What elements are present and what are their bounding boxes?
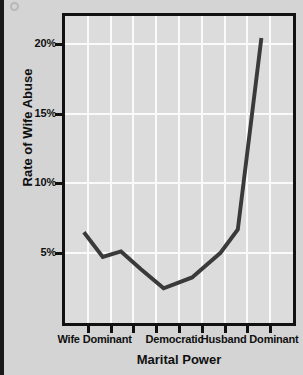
- x-axis-tick-mark: [155, 326, 158, 333]
- x-axis-tick-mark: [224, 326, 227, 333]
- line-series: [65, 16, 293, 323]
- chart-figure: Rate of Wife Abuse 5%10%15%20% Wife Domi…: [0, 0, 303, 375]
- y-axis-tick-mark: [55, 182, 62, 185]
- y-axis-tick-mark: [55, 43, 62, 46]
- x-axis-tick-mark: [201, 326, 204, 333]
- x-axis-tick-mark: [178, 326, 181, 333]
- series-polyline: [84, 38, 261, 288]
- corner-circle-icon: [10, 2, 19, 11]
- x-axis-category-label: Husband Dominant: [201, 333, 299, 345]
- y-axis-tick-label: 15%: [35, 107, 56, 119]
- x-axis-tick-mark: [132, 326, 135, 333]
- y-axis-tick-label: 20%: [35, 37, 56, 49]
- x-axis-tick-mark: [87, 326, 90, 333]
- x-axis-category-label: Wife Dominant: [57, 333, 131, 345]
- x-axis-tick-mark: [110, 326, 113, 333]
- y-axis-tick-mark: [55, 252, 62, 255]
- y-axis-title: Rate of Wife Abuse: [20, 43, 35, 213]
- y-axis-tick-label: 10%: [35, 176, 56, 188]
- x-axis-tick-mark: [246, 326, 249, 333]
- plot-inner: [65, 16, 293, 323]
- plot-area: [62, 13, 296, 326]
- x-axis-tick-mark: [269, 326, 272, 333]
- y-axis-tick-label: 5%: [41, 246, 57, 258]
- x-axis-category-label: Democratic: [145, 333, 203, 345]
- x-axis-title: Marital Power: [62, 352, 296, 367]
- y-axis-tick-mark: [55, 113, 62, 116]
